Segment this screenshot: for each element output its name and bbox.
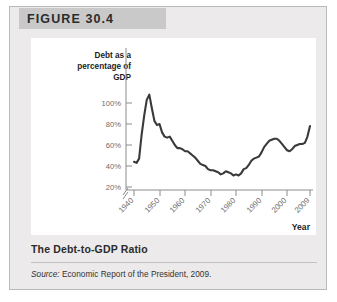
- y-axis-ticks: [126, 103, 132, 187]
- figure-frame: FIGURE 30.4 Debt as a percentage of GDP …: [9, 6, 327, 290]
- x-axis-name: Year: [292, 222, 311, 232]
- caption-block: The Debt-to-GDP Ratio Source: Economic R…: [31, 243, 321, 279]
- x-tick-label-1970: 1970: [194, 196, 213, 215]
- chart-card: Debt as a percentage of GDP 100% 80% 60%…: [31, 38, 316, 235]
- y-axis-title-line-3: GDP: [113, 73, 131, 82]
- y-axis-title: Debt as a percentage of GDP: [77, 51, 131, 82]
- x-tick-label-1980: 1980: [219, 196, 238, 215]
- caption-divider: [31, 262, 317, 263]
- x-tick-label-1940: 1940: [117, 196, 136, 215]
- y-tick-label-20: 20%: [106, 183, 121, 192]
- x-tick-label-2000: 2000: [270, 196, 289, 215]
- x-tick-label-1950: 1950: [143, 196, 162, 215]
- y-tick-label-100: 100%: [102, 99, 122, 108]
- x-axis-ticks: [134, 190, 310, 196]
- source-text: Economic Report of the President, 2009.: [60, 269, 212, 279]
- source-prefix: Source:: [31, 269, 60, 279]
- x-tick-label-1960: 1960: [168, 196, 187, 215]
- y-tick-label-80: 80%: [106, 120, 121, 129]
- caption-title: The Debt-to-GDP Ratio: [31, 243, 321, 255]
- figure-header-band: FIGURE 30.4: [19, 8, 166, 29]
- y-tick-label-60: 60%: [106, 141, 121, 150]
- y-axis-tick-labels: 100% 80% 60% 40% 20%: [102, 99, 122, 192]
- debt-to-gdp-line-chart: Debt as a percentage of GDP 100% 80% 60%…: [31, 38, 316, 235]
- y-axis-title-line-2: percentage of: [77, 62, 131, 71]
- debt-gdp-series-line: [134, 95, 310, 176]
- x-axis-tick-labels: 1940 1950 1960 1970 1980 1990 2000 2009: [117, 196, 312, 215]
- figure-number-label: FIGURE 30.4: [19, 12, 114, 26]
- x-tick-label-2009: 2009: [293, 196, 312, 215]
- x-tick-label-1990: 1990: [245, 196, 264, 215]
- caption-source: Source: Economic Report of the President…: [31, 269, 321, 279]
- y-tick-label-40: 40%: [106, 162, 121, 171]
